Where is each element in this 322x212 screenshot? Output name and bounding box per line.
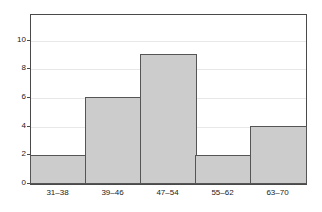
histogram-bar	[250, 126, 307, 184]
histogram-bar	[30, 155, 87, 184]
x-axis-tick-label: 47–54	[140, 189, 195, 197]
x-axis-tick-label: 63–70	[250, 189, 305, 197]
plot-area	[30, 14, 307, 185]
histogram-bar	[140, 54, 197, 184]
y-axis-tick-label: 8	[4, 64, 26, 72]
bars-layer	[31, 15, 306, 184]
y-axis-tick-label: 6	[4, 93, 26, 101]
y-axis-tick-label: 2	[4, 150, 26, 158]
y-axis-tick-label: 10	[4, 36, 26, 44]
x-axis-tick-label: 31–38	[30, 189, 85, 197]
histogram-bar	[195, 155, 252, 184]
x-axis-tick-label: 39–46	[85, 189, 140, 197]
y-axis-tick-label: 4	[4, 122, 26, 130]
histogram-bar	[85, 97, 142, 184]
histogram-chart: 0 2 4 6 8 10 31–38 39–46 47–54 55–62 63–…	[0, 0, 322, 212]
y-axis-tick-label: 0	[4, 179, 26, 187]
x-axis-tick-label: 55–62	[195, 189, 250, 197]
